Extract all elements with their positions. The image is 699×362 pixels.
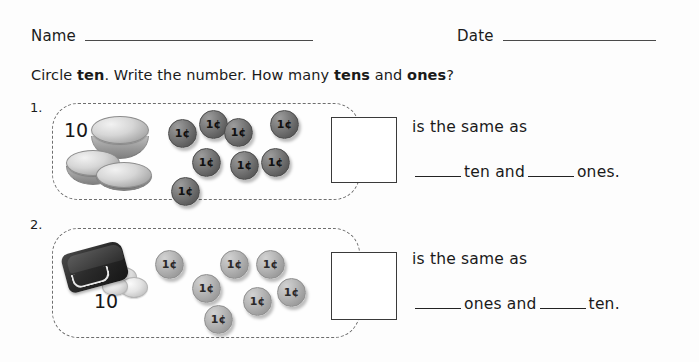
penny-coin-label: 1¢ xyxy=(199,157,214,168)
penny-coin[interactable]: 1¢ xyxy=(243,287,272,316)
penny-coin-label: 1¢ xyxy=(178,186,193,197)
problem-1-word-ones: ones. xyxy=(577,163,620,181)
problem-2-answer-box[interactable] xyxy=(331,252,397,320)
penny-coin-label: 1¢ xyxy=(268,157,283,168)
penny-coin-label: 1¢ xyxy=(199,283,214,294)
penny-coin-label: 1¢ xyxy=(162,259,177,270)
penny-coin-label: 1¢ xyxy=(175,128,190,139)
problem-2-word-ones: ones and xyxy=(464,295,537,313)
problem-2-same-as-text: is the same as xyxy=(412,250,527,268)
penny-coin[interactable]: 1¢ xyxy=(277,278,306,307)
problem-2-number: 2. xyxy=(30,217,42,232)
penny-coin[interactable]: 1¢ xyxy=(171,177,200,206)
problem-1-number: 1. xyxy=(30,100,42,115)
penny-coin-label: 1¢ xyxy=(250,296,265,307)
problem-1-fill-line: ten andones. xyxy=(412,163,620,181)
penny-coin-label: 1¢ xyxy=(237,160,252,171)
problem-1-answer-box[interactable] xyxy=(331,117,397,183)
penny-coin[interactable]: 1¢ xyxy=(204,305,233,334)
penny-coin-label: 1¢ xyxy=(227,259,242,270)
problem-1-same-as-text: is the same as xyxy=(412,118,527,136)
penny-coin-label: 1¢ xyxy=(206,119,221,130)
penny-coin[interactable]: 1¢ xyxy=(192,274,221,303)
problem-1-ten-label: 10 xyxy=(64,119,88,141)
problem-1-word-ten: ten and xyxy=(464,163,525,181)
penny-coin-label: 1¢ xyxy=(211,314,226,325)
problem-2-blank-a[interactable] xyxy=(415,295,461,309)
penny-coin-label: 1¢ xyxy=(277,119,292,130)
problem-2-ten-label: 10 xyxy=(94,290,118,312)
penny-coin[interactable]: 1¢ xyxy=(261,148,290,177)
penny-coin[interactable]: 1¢ xyxy=(192,148,221,177)
penny-coin[interactable]: 1¢ xyxy=(230,151,259,180)
penny-coin[interactable]: 1¢ xyxy=(155,250,184,279)
penny-coin-label: 1¢ xyxy=(284,287,299,298)
problem-2-blank-b[interactable] xyxy=(540,295,586,309)
penny-coin-label: 1¢ xyxy=(231,127,246,138)
penny-coin-label: 1¢ xyxy=(263,259,278,270)
problem-1-blank-a[interactable] xyxy=(415,163,461,177)
penny-coin[interactable]: 1¢ xyxy=(220,250,249,279)
penny-coin[interactable]: 1¢ xyxy=(224,118,253,147)
problem-2-word-ten: ten. xyxy=(589,295,620,313)
problem-2-fill-line: ones andten. xyxy=(412,295,620,313)
worksheet-page: Name Date Circle ten. Write the number. … xyxy=(0,0,699,362)
penny-coin[interactable]: 1¢ xyxy=(256,250,285,279)
problem-1-blank-b[interactable] xyxy=(528,163,574,177)
penny-coin[interactable]: 1¢ xyxy=(270,110,299,139)
penny-coin[interactable]: 1¢ xyxy=(168,119,197,148)
